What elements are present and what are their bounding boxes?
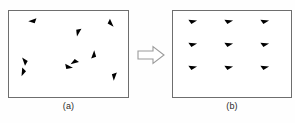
spin-circle [89, 62, 119, 92]
spin-grid-a [9, 11, 128, 97]
figure-root: (a) (b) [0, 0, 295, 123]
spin-circle [253, 62, 283, 92]
block-right-arrow-icon [136, 44, 166, 66]
spin-circle [217, 62, 247, 92]
caption-panel-b: (b) [172, 101, 292, 111]
spin-circle [181, 62, 211, 92]
spin-circle [53, 62, 83, 92]
spin-circle [17, 62, 47, 92]
caption-panel-a: (a) [8, 101, 129, 111]
panel-b-aligned [172, 10, 292, 98]
panel-a-disordered [8, 10, 129, 98]
spin-grid-b [173, 11, 291, 97]
